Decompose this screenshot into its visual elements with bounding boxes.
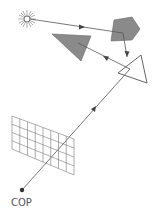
cop-label: COP bbox=[11, 197, 32, 208]
sun-icon bbox=[18, 10, 36, 28]
pentagon-object bbox=[111, 17, 140, 41]
outline-triangle-object bbox=[118, 55, 147, 83]
ray-tracing-diagram bbox=[0, 0, 153, 218]
cop-point bbox=[20, 188, 24, 192]
grey-triangle-object bbox=[52, 34, 91, 61]
